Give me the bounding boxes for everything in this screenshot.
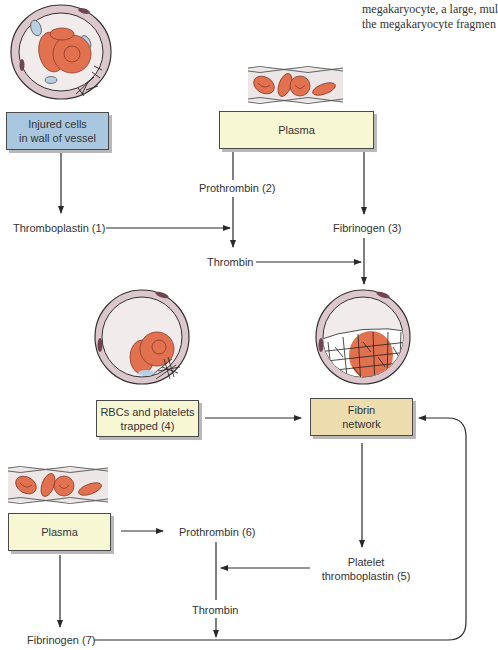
platelet-thromboplastin-line-2: thromboplastin (5) xyxy=(316,569,416,583)
thrombin-top-label: Thrombin xyxy=(207,255,253,269)
fibrin-network-line-1: Fibrin xyxy=(342,403,381,417)
rbcs-trapped-box: RBCs and platelets trapped (4) xyxy=(96,400,199,437)
plasma-box-bottom: Plasma xyxy=(8,513,111,551)
plasma-bottom-label: Plasma xyxy=(41,525,78,539)
injured-cells-line-2: in wall of vessel xyxy=(19,131,96,145)
fibrinogen-7-label: Fibrinogen (7) xyxy=(27,633,95,647)
thromboplastin-1-label: Thromboplastin (1) xyxy=(13,221,105,235)
rbcs-trapped-line-1: RBCs and platelets xyxy=(100,405,194,419)
prothrombin-6-label: Prothrombin (6) xyxy=(179,525,255,539)
rbcs-trapped-line-2: trapped (4) xyxy=(100,419,194,433)
injured-cells-box: Injured cells in wall of vessel xyxy=(6,112,109,150)
fibrinogen-3-label: Fibrinogen (3) xyxy=(333,221,401,235)
fibrin-network-box: Fibrin network xyxy=(310,398,413,436)
blood-vessel-strip-bottom xyxy=(8,465,108,505)
trapped-rbc-vessel-illustration xyxy=(92,287,192,387)
fibrin-network-vessel-illustration xyxy=(313,287,413,387)
plasma-top-label: Plasma xyxy=(278,123,315,137)
fibrin-network-line-2: network xyxy=(342,417,381,431)
prothrombin-2-label: Prothrombin (2) xyxy=(199,181,275,195)
blood-vessel-strip-top xyxy=(248,65,343,105)
injured-vessel-illustration xyxy=(6,2,116,102)
plasma-box-top: Plasma xyxy=(219,111,374,149)
platelet-thromboplastin-5-label: Platelet thromboplastin (5) xyxy=(316,555,416,583)
platelet-thromboplastin-line-1: Platelet xyxy=(316,555,416,569)
injured-cells-line-1: Injured cells xyxy=(19,117,96,131)
thrombin-bottom-label: Thrombin xyxy=(192,603,238,617)
